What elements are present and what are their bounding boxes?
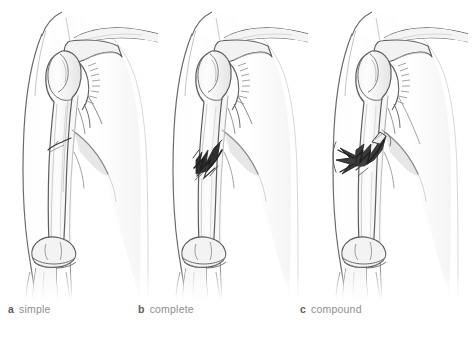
caption-complete: bcomplete [138, 303, 194, 315]
panel-complete [150, 0, 308, 300]
caption-letter-c: c [300, 303, 306, 315]
caption-compound: ccompound [300, 303, 362, 315]
caption-row: asimple bcomplete ccompound [0, 303, 473, 337]
caption-label-c: compound [311, 303, 362, 315]
caption-simple: asimple [8, 303, 51, 315]
caption-label-b: complete [150, 303, 194, 315]
bottom-fade [150, 268, 308, 300]
bottom-fade [310, 268, 468, 300]
caption-label-a: simple [19, 303, 51, 315]
panel-simple [0, 0, 158, 300]
bottom-fade [0, 268, 158, 300]
panel-compound [310, 0, 468, 300]
figure-root: asimple bcomplete ccompound [0, 0, 473, 337]
caption-letter-a: a [8, 303, 14, 315]
caption-letter-b: b [138, 303, 145, 315]
